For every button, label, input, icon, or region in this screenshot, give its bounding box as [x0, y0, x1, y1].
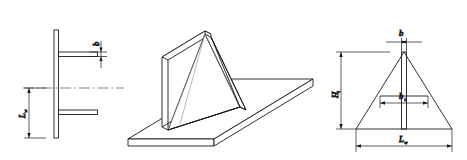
- bi-label-subscript: i: [404, 97, 406, 102]
- hi-dimension-label: H i: [330, 90, 341, 99]
- engineering-drawing-svg: L w b: [0, 0, 467, 160]
- lower-flange-plate: [59, 110, 98, 115]
- b-dimension-label: b: [91, 42, 101, 46]
- b-extension-lines: [90, 52, 107, 57]
- front-elevation-view: b H i b i: [330, 28, 452, 152]
- drawing-canvas: L w b: [0, 0, 467, 160]
- side-elevation-view: L w b: [17, 30, 124, 138]
- vertical-web-plate: [54, 30, 59, 138]
- triangle-outline: [356, 52, 452, 129]
- lw-label-subscript: w: [23, 109, 28, 113]
- b-top-extension-lines: [402, 38, 407, 52]
- isometric-view: [128, 31, 313, 146]
- base-plate-front-face: [128, 139, 214, 146]
- lw-label-text: L: [17, 113, 27, 119]
- bi-dimension-label: b i: [399, 91, 406, 102]
- hi-label-subscript: i: [336, 90, 341, 92]
- hi-dimension-line: [339, 52, 342, 129]
- b-label-text: b: [91, 42, 101, 46]
- lw-base-label-text: L: [398, 134, 404, 144]
- lw-base-label-subscript: w: [404, 140, 408, 145]
- bi-label-text: b: [399, 91, 403, 101]
- upper-flange-plate: [59, 52, 98, 57]
- b-top-label-text: b: [399, 28, 403, 38]
- b-top-dimension-line: [386, 40, 422, 43]
- lw-dimension-label: L w: [17, 109, 28, 119]
- lw-base-dimension-label: L w: [398, 134, 408, 145]
